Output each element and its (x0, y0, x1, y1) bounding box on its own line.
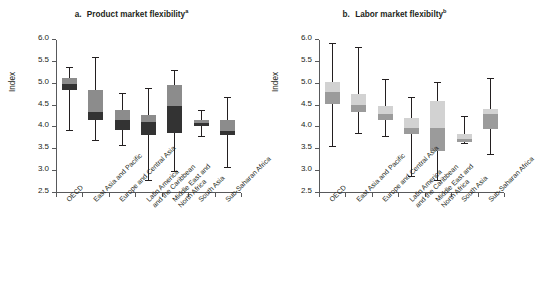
y-axis-tick-label: 2.5 (38, 186, 49, 195)
box-upper-quartile (430, 101, 445, 128)
panel-a-title-prefix: a. (75, 10, 82, 19)
whisker-line (411, 98, 412, 177)
whisker-cap-high (198, 110, 205, 111)
y-axis-tick: 5.0 (52, 83, 56, 84)
whisker-cap-high (487, 78, 494, 79)
y-axis-tick: 5.5 (315, 61, 319, 62)
box-lower-quartile (220, 131, 235, 135)
whisker-cap-high (408, 97, 415, 98)
y-axis-tick: 3.0 (315, 170, 319, 171)
box-lower-quartile (404, 128, 419, 135)
y-axis-tick: 4.0 (52, 126, 56, 127)
panel-b-title: b. Labor market flexibiltyb (263, 8, 526, 19)
panel-a-title-text: Product market flexibility (87, 10, 185, 19)
y-axis-tick: 4.5 (315, 105, 319, 106)
y-axis-tick-label: 4.5 (38, 99, 49, 108)
box-lower-quartile (167, 106, 182, 133)
panel-product-market-flexibility: a. Product market flexibilitya Index 2.5… (0, 0, 263, 282)
y-axis-tick-label: 4.5 (301, 99, 312, 108)
panel-labor-market-flexibility: b. Labor market flexibiltyb Index 2.53.0… (263, 0, 526, 282)
y-axis-tick: 4.0 (315, 126, 319, 127)
y-axis-tick: 5.0 (315, 83, 319, 84)
box-lower-quartile (483, 114, 498, 128)
box-upper-quartile (167, 85, 182, 106)
whisker-line (358, 48, 359, 134)
y-axis-tick-label: 5.0 (38, 77, 49, 86)
y-axis-tick: 4.5 (52, 105, 56, 106)
box-upper-quartile (141, 115, 156, 122)
whisker-cap-low (355, 133, 362, 134)
whisker-cap-high (92, 57, 99, 58)
box-plot-item (351, 40, 366, 193)
y-axis-tick: 3.5 (52, 148, 56, 149)
whisker-cap-low (119, 145, 126, 146)
box-plot-item (483, 40, 498, 193)
panel-b-x-axis-labels: OECDEast Asia and PacificEurope and Cent… (319, 196, 519, 282)
y-axis-tick: 6.0 (315, 39, 319, 40)
y-axis-tick: 6.0 (52, 39, 56, 40)
whisker-cap-high (382, 79, 389, 80)
y-axis-tick-label: 6.0 (301, 33, 312, 42)
whisker-cap-high (434, 82, 441, 83)
y-axis-tick-label: 2.5 (301, 186, 312, 195)
box-lower-quartile (141, 122, 156, 135)
whisker-cap-high (461, 116, 468, 117)
y-axis-tick-label: 6.0 (38, 33, 49, 42)
y-axis-tick-label: 5.5 (301, 55, 312, 64)
box-lower-quartile (115, 120, 130, 130)
whisker-cap-low (224, 167, 231, 168)
whisker-cap-high (329, 43, 336, 44)
y-axis-tick-label: 4.0 (38, 120, 49, 129)
whisker-cap-high (224, 97, 231, 98)
box-plot-item (62, 40, 77, 193)
panel-a-y-axis-label: Index (8, 72, 17, 92)
panel-b-y-axis-line (319, 40, 320, 193)
whisker-cap-high (171, 70, 178, 71)
box-upper-quartile (88, 90, 103, 112)
box-upper-quartile (404, 118, 419, 128)
whisker-cap-low (92, 140, 99, 141)
panel-a-title: a. Product market flexibilitya (0, 8, 263, 19)
box-upper-quartile (115, 110, 130, 120)
y-axis-tick: 5.5 (52, 61, 56, 62)
y-axis-tick-label: 3.5 (38, 142, 49, 151)
whisker-cap-high (66, 67, 73, 68)
box-lower-quartile (378, 114, 393, 120)
y-axis-tick-label: 5.0 (301, 77, 312, 86)
y-axis-tick-label: 3.0 (38, 164, 49, 173)
y-axis-tick-label: 3.5 (301, 142, 312, 151)
whisker-cap-low (382, 136, 389, 137)
y-axis-tick-label: 3.0 (301, 164, 312, 173)
whisker-cap-low (198, 136, 205, 137)
box-plot-item (220, 40, 235, 193)
box-lower-quartile (325, 92, 340, 103)
whisker-cap-low (66, 130, 73, 131)
box-upper-quartile (351, 94, 366, 104)
whisker-cap-high (355, 47, 362, 48)
whisker-cap-high (145, 88, 152, 89)
panel-b-y-axis-label: Index (271, 72, 280, 92)
box-upper-quartile (378, 106, 393, 114)
box-upper-quartile (220, 120, 235, 130)
y-axis-tick-label: 5.5 (38, 55, 49, 64)
y-axis-tick: 3.5 (315, 148, 319, 149)
panel-b-title-text: Labor market flexibilty (355, 10, 443, 19)
box-upper-quartile (325, 82, 340, 92)
whisker-cap-low (487, 154, 494, 155)
y-axis-tick: 3.0 (52, 170, 56, 171)
box-lower-quartile (88, 112, 103, 119)
box-plot-item (88, 40, 103, 193)
whisker-cap-high (119, 93, 126, 94)
box-lower-quartile (194, 123, 209, 126)
y-axis-tick-label: 4.0 (301, 120, 312, 129)
box-lower-quartile (457, 139, 472, 142)
panel-a-title-superscript: a (185, 8, 188, 14)
panel-a-y-axis-line (56, 40, 57, 193)
whisker-cap-low (329, 146, 336, 147)
box-lower-quartile (62, 84, 77, 91)
panel-b-title-prefix: b. (343, 10, 350, 19)
panel-a-x-axis-labels: OECDEast Asia and PacificEurope and Cent… (56, 196, 256, 282)
box-lower-quartile (351, 105, 366, 112)
whisker-cap-low (461, 143, 468, 144)
